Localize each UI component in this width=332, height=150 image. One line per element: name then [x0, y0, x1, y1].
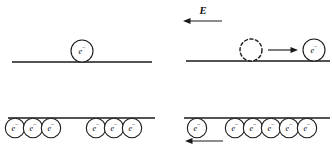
physics-diagram: e−e−Ee−e−e−e−e−e−e−e−e−e−e−e− — [0, 0, 332, 150]
electron: e− — [261, 118, 280, 137]
electron: e− — [187, 118, 206, 137]
panel-single-electron-at-rest: e− — [12, 40, 152, 62]
electron: e− — [104, 118, 123, 137]
panel-single-electron-drifting: e−E — [183, 5, 330, 61]
motion-arrow-head — [291, 47, 299, 53]
panel-electron-row-drifting: e−e−e−e−e−e− — [184, 118, 330, 144]
electron: e− — [71, 40, 93, 62]
electron: e− — [5, 118, 24, 137]
electron: e− — [122, 118, 141, 137]
electron: e− — [243, 118, 262, 137]
electron: e− — [279, 118, 298, 137]
electron: e− — [86, 118, 105, 137]
electron: e− — [225, 118, 244, 137]
vacancy-circle — [240, 39, 262, 61]
drift-arrow-head — [185, 138, 193, 144]
electron: e− — [41, 118, 60, 137]
electron: e− — [23, 118, 42, 137]
field-arrow-head — [183, 18, 191, 24]
field-label-e: E — [198, 5, 206, 16]
electron: e− — [303, 39, 325, 61]
diagram-canvas: e−e−Ee−e−e−e−e−e−e−e−e−e−e−e− — [0, 0, 332, 150]
electron: e− — [297, 118, 316, 137]
panel-electron-row-at-rest: e−e−e−e−e−e− — [5, 118, 155, 138]
